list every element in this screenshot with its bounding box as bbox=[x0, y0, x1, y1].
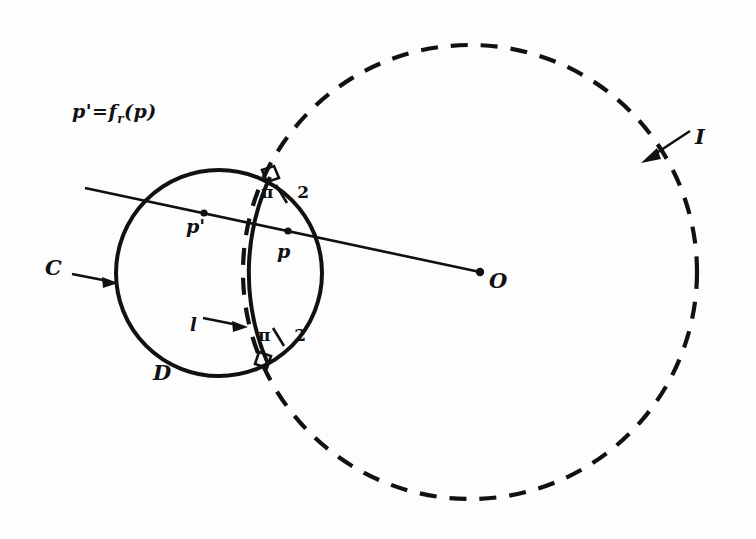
angle-lower-denominator: 2 bbox=[294, 325, 306, 345]
label-l: l bbox=[190, 314, 197, 335]
formula-lhs: p' bbox=[72, 100, 92, 122]
angle-label-upper: π 2 bbox=[261, 182, 309, 202]
arrow-to-circle-C bbox=[72, 274, 118, 288]
label-C: C bbox=[45, 255, 62, 280]
formula-function: f bbox=[109, 100, 118, 122]
arrow-to-arc-l bbox=[203, 318, 248, 332]
point-O-dot bbox=[476, 268, 484, 276]
formula-p-prime-equals-f-r-of-p: p'=fr(p) bbox=[72, 100, 157, 126]
formula-argument: (p) bbox=[124, 100, 157, 122]
angle-upper-numerator: π bbox=[261, 182, 273, 202]
dashed-circle-I bbox=[243, 45, 697, 499]
label-O: O bbox=[489, 268, 507, 293]
label-p: p bbox=[277, 240, 290, 262]
angle-upper-denominator: 2 bbox=[297, 182, 309, 202]
point-p-dot bbox=[284, 227, 291, 234]
angle-label-lower: π 2 bbox=[258, 325, 306, 345]
math-diagram bbox=[0, 0, 756, 539]
angle-lower-numerator: π bbox=[258, 325, 270, 345]
formula-equals: = bbox=[92, 100, 108, 122]
label-D: D bbox=[153, 360, 171, 385]
label-I: I bbox=[695, 124, 705, 149]
label-p-prime: p' bbox=[186, 215, 205, 237]
right-angle-marker-lower bbox=[255, 352, 271, 368]
